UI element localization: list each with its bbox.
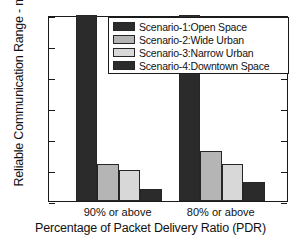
legend-swatch-icon [113,61,135,70]
bar [222,164,244,201]
y-axis-tick-mirror [281,172,287,173]
chart-figure: Reliable Communication Range - m Percent… [0,0,301,244]
legend-swatch-icon [113,35,135,44]
legend-swatch-icon [113,22,135,31]
legend-item[interactable]: Scenario-3:Narrow Urban [113,46,288,59]
bar [76,15,98,201]
legend-swatch-icon [113,48,135,57]
y-axis-tick [49,203,55,204]
legend-item-label: Scenario-2:Wide Urban [139,34,244,46]
y-axis-tick [49,141,55,142]
y-axis-tick [49,172,55,173]
legend-item-label: Scenario-4:Downtown Space [139,60,269,72]
y-axis-tick [49,48,55,49]
y-axis-tick [49,110,55,111]
legend-item-label: Scenario-3:Narrow Urban [139,47,253,59]
y-axis-title: Reliable Communication Range - m [12,0,26,196]
bar [119,170,141,201]
y-axis-tick-mirror [281,203,287,204]
bar [97,164,119,201]
y-axis-tick [49,17,55,18]
legend-item-label: Scenario-1:Open Space [139,21,247,33]
legend-item[interactable]: Scenario-2:Wide Urban [113,33,288,46]
bar [140,189,162,201]
x-axis-tick-label: 90% or above [84,206,152,218]
y-axis-tick [49,79,55,80]
x-axis-title: Percentage of Packet Delivery Ratio (PDR… [0,221,301,235]
bar [243,182,265,201]
legend-item[interactable]: Scenario-1:Open Space [113,20,288,33]
x-axis-tick-label: 80% or above [187,206,255,218]
y-axis-tick-mirror [281,110,287,111]
chart-legend: Scenario-1:Open SpaceScenario-2:Wide Urb… [108,17,289,74]
y-axis-tick-mirror [281,79,287,80]
legend-item[interactable]: Scenario-4:Downtown Space [113,59,288,72]
y-axis-tick-mirror [281,141,287,142]
bar [200,151,222,201]
